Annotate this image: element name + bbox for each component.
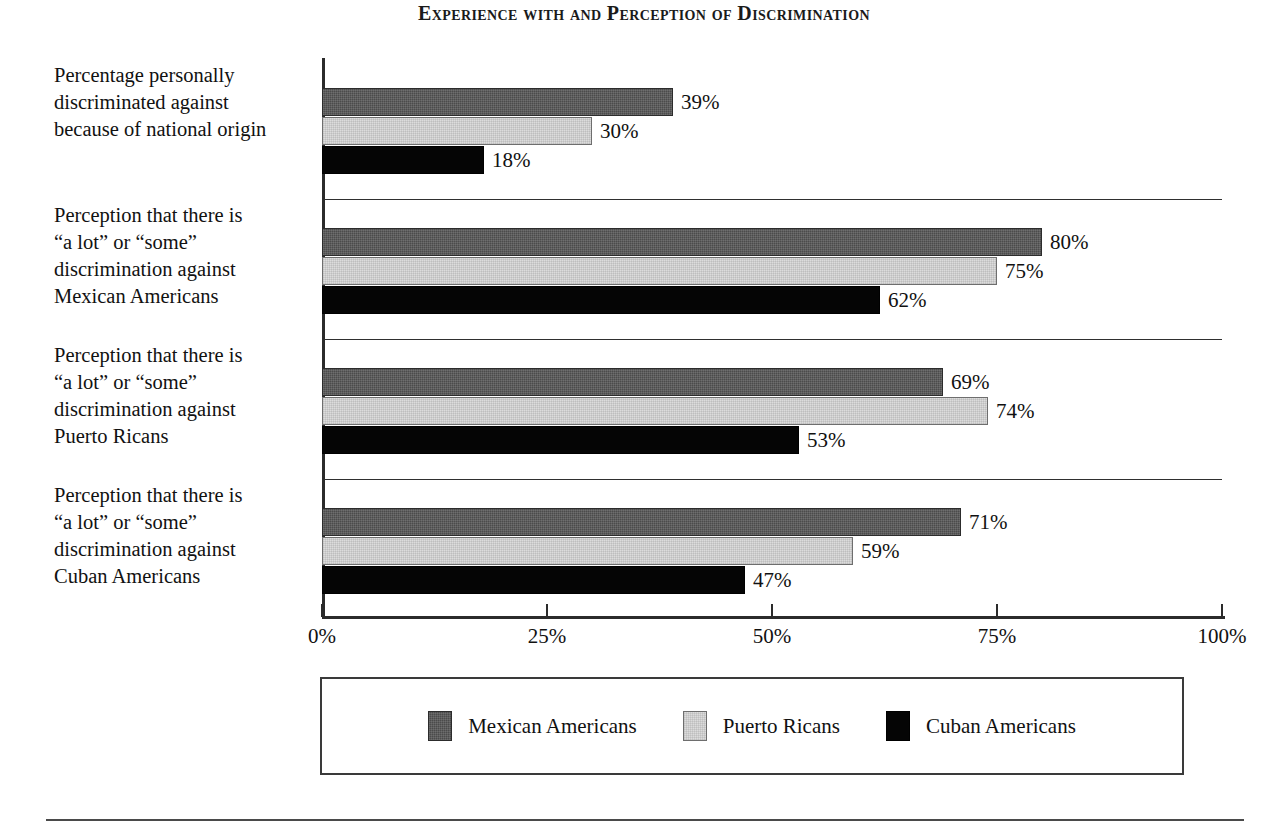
bar-value-label: 80% xyxy=(1050,228,1089,256)
category-label-line: Cuban Americans xyxy=(54,563,316,590)
bar-value-label: 75% xyxy=(1005,257,1044,285)
bar-1-2[interactable] xyxy=(322,397,988,425)
category-label-line: discriminated against xyxy=(54,89,316,116)
bar-value-label: 18% xyxy=(492,146,531,174)
plot-area: 39%30%18%80%75%62%69%74%53%71%59%47% 0%2… xyxy=(322,58,1222,619)
category-label-line: “a lot” or “some” xyxy=(54,369,316,396)
bar-1-3[interactable] xyxy=(322,537,853,565)
bar-value-label: 62% xyxy=(888,286,927,314)
bar-0-2[interactable] xyxy=(322,368,943,396)
bar-value-label: 69% xyxy=(951,368,990,396)
chart-title: Experience with and Perception of Discri… xyxy=(0,2,1288,25)
x-tick-mark xyxy=(771,604,773,617)
category-label-line: Perception that there is xyxy=(54,482,316,509)
category-label-line: Percentage personally xyxy=(54,62,316,89)
category-label-line: discrimination against xyxy=(54,256,316,283)
category-label-line: discrimination against xyxy=(54,536,316,563)
bar-0-3[interactable] xyxy=(322,508,961,536)
legend-item-0[interactable]: Mexican Americans xyxy=(428,711,637,741)
category-label-0: Percentage personallydiscriminated again… xyxy=(54,62,316,143)
category-label-line: “a lot” or “some” xyxy=(54,229,316,256)
bar-2-3[interactable] xyxy=(322,566,745,594)
bar-2-2[interactable] xyxy=(322,426,799,454)
legend-item-1[interactable]: Puerto Ricans xyxy=(683,711,840,741)
bar-value-label: 74% xyxy=(996,397,1035,425)
category-label-line: Perception that there is xyxy=(54,342,316,369)
category-label-line: “a lot” or “some” xyxy=(54,509,316,536)
x-tick-label: 0% xyxy=(308,624,336,649)
category-label-line: discrimination against xyxy=(54,396,316,423)
x-tick-label: 75% xyxy=(978,624,1017,649)
bar-value-label: 59% xyxy=(861,537,900,565)
legend: Mexican AmericansPuerto RicansCuban Amer… xyxy=(320,677,1184,775)
x-tick-mark xyxy=(321,604,323,617)
x-tick-label: 25% xyxy=(528,624,567,649)
category-label-2: Perception that there is“a lot” or “some… xyxy=(54,342,316,450)
category-label-3: Perception that there is“a lot” or “some… xyxy=(54,482,316,590)
bar-2-1[interactable] xyxy=(322,286,880,314)
legend-item-2[interactable]: Cuban Americans xyxy=(886,711,1076,741)
group-separator xyxy=(322,479,1222,480)
bar-0-0[interactable] xyxy=(322,88,673,116)
group-separator xyxy=(322,339,1222,340)
category-label-line: Puerto Ricans xyxy=(54,423,316,450)
legend-label: Mexican Americans xyxy=(468,714,637,739)
footer-rule xyxy=(46,819,1244,821)
category-label-line: Perception that there is xyxy=(54,202,316,229)
bar-value-label: 53% xyxy=(807,426,846,454)
x-tick-mark xyxy=(546,604,548,617)
x-tick-mark xyxy=(1221,604,1223,617)
bar-value-label: 39% xyxy=(681,88,720,116)
x-tick-mark xyxy=(996,604,998,617)
bar-2-0[interactable] xyxy=(322,146,484,174)
bar-1-0[interactable] xyxy=(322,117,592,145)
legend-items: Mexican AmericansPuerto RicansCuban Amer… xyxy=(322,679,1182,773)
legend-swatch-icon xyxy=(886,711,910,741)
bar-0-1[interactable] xyxy=(322,228,1042,256)
legend-label: Puerto Ricans xyxy=(723,714,840,739)
category-label-line: Mexican Americans xyxy=(54,283,316,310)
bar-value-label: 47% xyxy=(753,566,792,594)
group-separator xyxy=(322,199,1222,200)
bar-value-label: 71% xyxy=(969,508,1008,536)
legend-swatch-icon xyxy=(683,711,707,741)
category-label-1: Perception that there is“a lot” or “some… xyxy=(54,202,316,310)
category-label-line: because of national origin xyxy=(54,116,316,143)
bar-1-1[interactable] xyxy=(322,257,997,285)
legend-swatch-icon xyxy=(428,711,452,741)
x-tick-label: 50% xyxy=(753,624,792,649)
x-axis-line xyxy=(322,616,1225,619)
legend-label: Cuban Americans xyxy=(926,714,1076,739)
bar-value-label: 30% xyxy=(600,117,639,145)
x-tick-label: 100% xyxy=(1198,624,1247,649)
